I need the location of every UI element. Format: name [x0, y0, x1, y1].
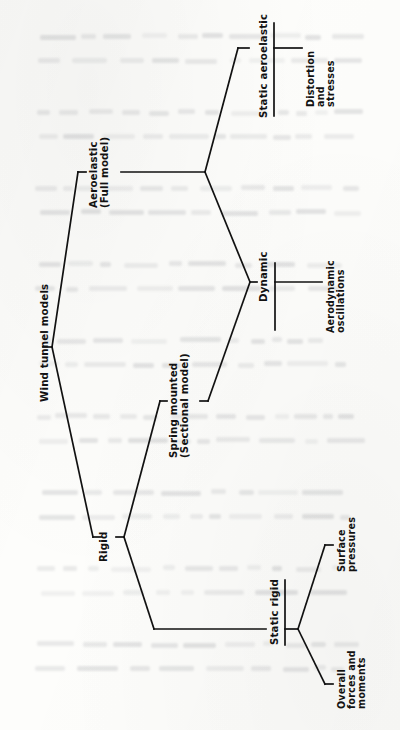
- scanned-page: Wind tunnel models Aeroelastic (Full mod…: [0, 0, 400, 730]
- edge-rigid-to-spring-mounted: [124, 401, 160, 537]
- edge-root-to-aeroelastic: [52, 172, 78, 347]
- node-label-aeroelastic: Aeroelastic (Full model): [89, 137, 111, 208]
- edge-static-rigid-to-surface-pressures: [298, 545, 325, 629]
- edge-root-to-rigid: [52, 347, 93, 537]
- edge-aeroelastic-to-static-aeroelastic: [205, 48, 238, 172]
- tree-connector-lines: [0, 0, 400, 730]
- node-label-rigid: Rigid: [99, 532, 110, 562]
- leaf-label-aerodynamic-oscillations: Aerodynamic oscillations: [326, 260, 346, 333]
- edge-static-rigid-to-overall-forces: [298, 629, 325, 684]
- edge-aeroelastic-to-dynamic: [205, 172, 250, 282]
- node-label-spring-mounted: Spring mounted (Sectional model): [169, 353, 191, 458]
- edge-spring-mounted-to-dynamic: [208, 282, 250, 401]
- edge-rigid-to-static-rigid: [124, 537, 154, 629]
- node-label-static-aeroelastic: Static aeroelastic: [259, 14, 270, 118]
- leaf-label-overall-forces-and-moments: Overall forces and moments: [337, 650, 367, 709]
- node-label-dynamic: Dynamic: [259, 251, 270, 302]
- node-label-root: Wind tunnel models: [40, 284, 51, 402]
- node-label-static-rigid: Static rigid: [270, 579, 281, 645]
- leaf-label-distortion-and-stresses: Distortion and stresses: [306, 51, 336, 107]
- leaf-label-surface-pressures: Surface pressures: [337, 517, 357, 572]
